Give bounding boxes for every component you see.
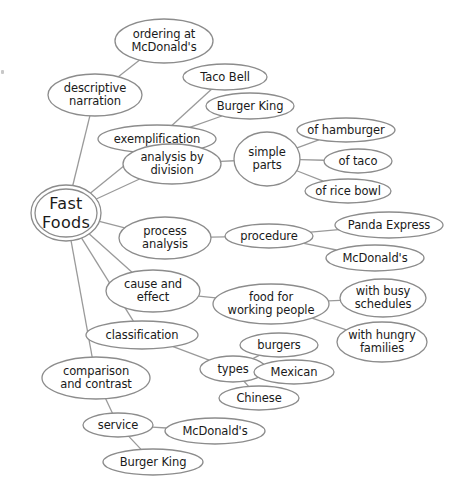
node-procedure: procedure [240,230,297,243]
node-label-line: McDonald's [182,425,247,438]
node-burger-king-example: Burger King [217,100,284,113]
node-label-line: analysis [142,238,188,251]
connector-comparison-and-contrast-to-service [106,399,113,413]
node-with-hungry-families: with hungryfamilies [348,329,416,355]
node-mexican: Mexican [271,366,318,379]
node-label-line: McDonald's [342,252,407,265]
node-label-line: service [98,419,139,432]
node-label-line: of taco [339,155,378,168]
node-taco-bell: Taco Bell [200,71,250,84]
node-exemplification: exemplification [114,133,200,146]
node-mcdonalds-service: McDonald's [182,425,247,438]
connector-fast-foods-to-process-analysis [99,221,124,227]
node-classification: classification [106,329,179,342]
connector-simple-parts-to-of-taco [300,160,324,161]
node-burger-king-service: Burger King [120,456,187,469]
node-label-line: Taco Bell [200,71,250,84]
node-label-line: exemplification [114,133,200,146]
node-service: service [98,419,139,432]
connector-descriptive-narration-to-ordering-at-mcdonalds [118,60,139,77]
node-label-line: Panda Express [348,219,430,232]
connector-classification-to-types [173,347,209,360]
node-simple-parts: simpleparts [248,146,285,172]
node-label-line: division [140,164,203,177]
node-label-line: types [217,363,248,376]
connector-types-to-chinese [244,381,249,386]
connector-procedure-to-mcdonalds-procedure [304,243,336,250]
node-label-line: procedure [240,230,297,243]
node-label-line: working people [228,304,315,317]
node-label-line: Chinese [236,392,281,405]
connector-exemplification-to-burger-king-example [190,116,222,127]
connector-procedure-to-panda-express [311,230,339,233]
connector-service-to-burger-king-service [129,436,141,449]
node-food-for-working-people: food forworking people [228,291,315,317]
node-label-line: of rice bowl [315,185,380,198]
edge-mark [1,70,4,74]
node-process-analysis: processanalysis [142,225,188,251]
connector-simple-parts-to-of-hamburger [297,140,319,148]
node-label-line: effect [124,291,182,304]
node-label-line: Foods [42,213,90,232]
node-panda-express: Panda Express [348,219,430,232]
node-mcdonalds-procedure: McDonald's [342,252,407,265]
node-types: types [217,363,248,376]
node-label-line: Burger King [217,100,284,113]
node-descriptive-narration: descriptivenarration [64,82,126,108]
node-label-line: families [348,342,416,355]
node-label-line: Mexican [271,366,318,379]
node-label-line: Burger King [120,456,187,469]
node-label-line: narration [64,95,126,108]
node-label-line: parts [248,159,285,172]
node-burgers: burgers [257,339,301,352]
node-of-hamburger: of hamburger [307,124,384,137]
node-label-line: McDonald's [131,41,196,54]
connector-simple-parts-to-of-rice-bowl [297,171,323,181]
connector-food-for-working-people-to-with-hungry-families [312,318,346,330]
node-label-line: Fast [42,194,90,213]
node-chinese: Chinese [236,392,281,405]
connector-food-for-working-people-to-with-busy-schedules [328,300,340,301]
node-fast-foods: FastFoods [42,194,90,232]
node-label-line: and contrast [60,378,132,391]
node-cause-and-effect: cause andeffect [124,278,182,304]
node-label-line: schedules [355,298,412,311]
connector-fast-foods-to-analysis-by-division [96,179,139,199]
connector-cause-and-effect-to-food-for-working-people [199,296,216,298]
node-label-line: burgers [257,339,301,352]
node-analysis-by-division: analysis bydivision [140,151,203,177]
node-of-rice-bowl: of rice bowl [315,185,380,198]
node-label-line: of hamburger [307,124,384,137]
connector-service-to-mcdonalds-service [152,427,166,428]
node-with-busy-schedules: with busyschedules [355,285,412,311]
node-comparison-and-contrast: comparisonand contrast [60,365,132,391]
node-ordering-at-mcdonalds: ordering atMcDonald's [131,28,196,54]
connector-fast-foods-to-descriptive-narration [73,116,90,186]
connector-analysis-by-division-to-simple-parts [221,161,234,162]
node-label-line: classification [106,329,179,342]
node-of-taco: of taco [339,155,378,168]
